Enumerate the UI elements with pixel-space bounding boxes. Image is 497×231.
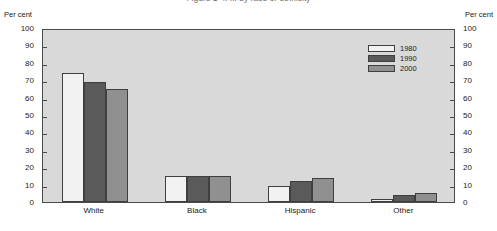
bar bbox=[187, 176, 209, 202]
bar bbox=[393, 195, 415, 202]
y-tick-label-left: 40 bbox=[4, 128, 34, 138]
legend-swatch bbox=[368, 45, 395, 52]
y-tick-label-right: 10 bbox=[463, 181, 493, 191]
x-axis-label-hispanic: Hispanic bbox=[285, 206, 316, 215]
y-tick-label-left: 50 bbox=[4, 111, 34, 121]
y-tick-label-right: 60 bbox=[463, 94, 493, 104]
y-tick-label-right: 70 bbox=[463, 76, 493, 86]
y-tick-label-left: 80 bbox=[4, 59, 34, 69]
x-axis-category-labels: WhiteBlackHispanicOther bbox=[42, 206, 455, 220]
y-tick-label-right: 40 bbox=[463, 128, 493, 138]
y-tick-label-right: 20 bbox=[463, 163, 493, 173]
bar bbox=[290, 181, 312, 202]
y-tick-label-right: 90 bbox=[463, 41, 493, 51]
legend-item: 1980 bbox=[368, 44, 417, 53]
bar bbox=[165, 176, 187, 202]
bar-group bbox=[268, 30, 334, 202]
legend-item: 2000 bbox=[368, 64, 417, 73]
x-axis-label-black: Black bbox=[187, 206, 207, 215]
bar bbox=[106, 89, 128, 202]
y-tick-label-left: 20 bbox=[4, 163, 34, 173]
bar bbox=[62, 73, 84, 202]
y-tick-label-left: 70 bbox=[4, 76, 34, 86]
y-tick-label-left: 0 bbox=[4, 198, 34, 208]
bar bbox=[415, 193, 437, 202]
legend-swatch bbox=[368, 65, 395, 72]
y-tick-label-left: 100 bbox=[4, 24, 34, 34]
chart-title: Figure 1-4. ... by race or ethnicity bbox=[0, 0, 497, 3]
bar bbox=[84, 82, 106, 202]
axis-caption-left: Per cent bbox=[4, 10, 32, 19]
x-axis-label-other: Other bbox=[393, 206, 413, 215]
y-tick-label-right: 80 bbox=[463, 59, 493, 69]
legend-label: 1990 bbox=[400, 54, 417, 63]
y-tick-label-left: 90 bbox=[4, 41, 34, 51]
bar bbox=[209, 176, 231, 202]
legend-label: 2000 bbox=[400, 64, 417, 73]
y-axis-left: 0102030405060708090100 bbox=[4, 29, 38, 203]
legend-label: 1980 bbox=[400, 44, 417, 53]
y-tick-label-left: 30 bbox=[4, 146, 34, 156]
bar-group bbox=[62, 30, 128, 202]
y-axis-right: 0102030405060708090100 bbox=[459, 29, 493, 203]
y-tick-label-left: 10 bbox=[4, 181, 34, 191]
x-axis-label-white: White bbox=[83, 206, 103, 215]
y-tick-label-right: 100 bbox=[463, 24, 493, 34]
y-tick-label-right: 0 bbox=[463, 198, 493, 208]
legend-item: 1990 bbox=[368, 54, 417, 63]
bar bbox=[312, 178, 334, 202]
bar-group bbox=[165, 30, 231, 202]
axis-caption-right: Per cent bbox=[465, 10, 493, 19]
legend-swatch bbox=[368, 55, 395, 62]
y-tick-label-right: 30 bbox=[463, 146, 493, 156]
y-tick-label-right: 50 bbox=[463, 111, 493, 121]
legend: 198019902000 bbox=[368, 44, 417, 73]
bar bbox=[371, 199, 393, 202]
bar bbox=[268, 186, 290, 202]
y-tick-label-left: 60 bbox=[4, 94, 34, 104]
